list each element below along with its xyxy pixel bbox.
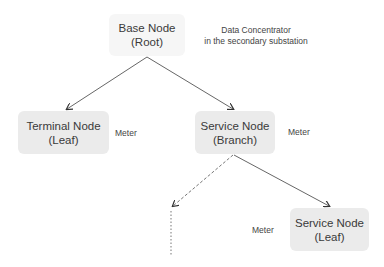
node-title: Terminal Node	[26, 119, 100, 133]
node-title: Service Node	[200, 119, 269, 133]
terminal-annotation: Meter	[115, 128, 137, 139]
branch-annotation: Meter	[288, 127, 310, 138]
service-node-leaf: Service Node (Leaf)	[290, 208, 369, 251]
service-leaf-annotation: Meter	[252, 225, 274, 236]
edge-root-branch	[147, 57, 233, 109]
edge-branch-dashed	[173, 155, 233, 206]
node-subtitle: (Root)	[131, 35, 163, 49]
edge-branch-leaf	[234, 155, 329, 206]
terminal-node-leaf: Terminal Node (Leaf)	[18, 111, 109, 154]
root-annotation: Data Concentrator in the secondary subst…	[196, 25, 316, 47]
edge-root-terminal	[67, 57, 147, 109]
node-title: Service Node	[295, 216, 364, 230]
service-node-branch: Service Node (Branch)	[195, 111, 275, 154]
node-subtitle: (Leaf)	[314, 230, 344, 244]
node-title: Base Node	[119, 21, 176, 35]
node-subtitle: (Leaf)	[48, 133, 78, 147]
base-node-root: Base Node (Root)	[109, 14, 185, 56]
node-subtitle: (Branch)	[213, 133, 257, 147]
